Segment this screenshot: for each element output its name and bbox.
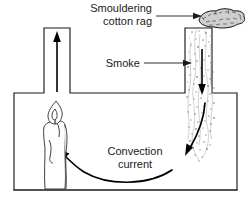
smouldering-rag-label-line2: cotton rag	[103, 15, 152, 27]
convection-diagram: Smouldering cotton rag Smoke Convection …	[0, 0, 251, 203]
candle-flame	[48, 101, 62, 124]
smoke-label: Smoke	[106, 57, 140, 69]
smouldering-cotton-rag	[199, 9, 245, 28]
convection-current-label-line2: current	[118, 158, 152, 170]
warm-air-rising-arrow	[53, 31, 61, 92]
smoke-leader	[144, 60, 192, 66]
candle	[44, 121, 67, 189]
smoke-column	[186, 30, 215, 162]
convection-current-label-line1: Convection	[107, 145, 162, 157]
smouldering-rag-label-line1: Smouldering	[90, 2, 152, 14]
smouldering-rag-leader	[156, 13, 202, 19]
